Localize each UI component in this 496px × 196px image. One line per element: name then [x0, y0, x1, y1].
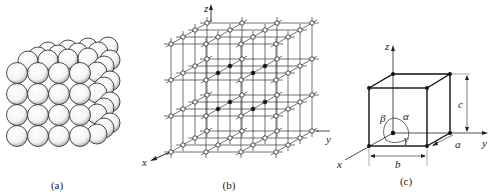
lattice-node: [275, 21, 279, 25]
lattice-node: [181, 71, 185, 75]
lattice-node: [228, 28, 232, 32]
lattice-node: [275, 57, 279, 61]
lattice-node-interior: [228, 64, 232, 68]
lattice-node: [205, 93, 209, 97]
lattice-node: [240, 129, 244, 133]
unit-cell-edges: [369, 74, 450, 146]
edge-b-label: b: [395, 158, 401, 170]
lattice-node: [274, 42, 278, 46]
lattice-node: [181, 143, 185, 147]
lattice-node: [216, 143, 220, 147]
lattice-node: [204, 150, 208, 154]
lattice-node: [216, 35, 220, 39]
lattice-node: [239, 42, 243, 46]
sphere-side-layer: [87, 50, 120, 144]
lattice-node: [310, 57, 314, 61]
crystal-structure-figure: (a) z x y (b) z y x: [0, 0, 496, 196]
lattice-node: [205, 21, 209, 25]
lattice-node-interior: [251, 107, 255, 111]
lattice-node: [193, 136, 197, 140]
lattice-y-axis: y: [316, 131, 331, 145]
lattice-node: [239, 78, 243, 82]
lattice-node: [204, 78, 208, 82]
lattice-node: [310, 129, 314, 133]
y-axis-label-c: y: [481, 137, 487, 149]
panel-a-sphere-packing: [7, 37, 121, 147]
angle-beta-label: β: [379, 112, 386, 124]
lattice-node: [239, 114, 243, 118]
sphere-front-face: [7, 63, 91, 147]
lattice-node: [263, 136, 267, 140]
lattice-node: [286, 107, 290, 111]
x-axis-label-c: x: [336, 158, 342, 170]
unit-cell-vertices: [367, 72, 452, 148]
lattice-x-axis: x: [141, 152, 170, 168]
lattice-node: [286, 35, 290, 39]
lattice-nodes: [169, 21, 314, 154]
lattice-node: [274, 114, 278, 118]
lattice-node: [181, 107, 185, 111]
lattice-node-interior: [263, 64, 267, 68]
lattice-node: [240, 21, 244, 25]
lattice-node: [310, 21, 314, 25]
lattice-node: [298, 136, 302, 140]
lattice-node: [298, 100, 302, 104]
lattice-node: [204, 42, 208, 46]
lattice-node: [251, 143, 255, 147]
lattice-node: [193, 28, 197, 32]
angle-gamma-label: γ: [404, 133, 409, 145]
z-axis-label-b: z: [203, 2, 209, 14]
edge-c-label: c: [458, 98, 463, 110]
lattice-node: [286, 143, 290, 147]
angle-alpha-label: α: [403, 110, 409, 122]
lattice-node-interior: [216, 71, 220, 75]
lattice-node: [205, 57, 209, 61]
lattice-node: [251, 35, 255, 39]
z-axis-label-c: z: [384, 40, 390, 52]
lattice-node-interior: [228, 100, 232, 104]
lattice-node: [169, 150, 173, 154]
lattice-node: [204, 114, 208, 118]
lattice-node: [274, 150, 278, 154]
lattice-node: [274, 78, 278, 82]
lattice-node: [240, 57, 244, 61]
caption-a: (a): [51, 179, 64, 192]
lattice-node: [193, 64, 197, 68]
lattice-z-axis: z: [203, 2, 213, 22]
lattice-node: [228, 136, 232, 140]
x-axis-label-b: x: [141, 156, 147, 168]
lattice-node: [298, 28, 302, 32]
caption-b: (b): [223, 179, 236, 192]
lattice-node: [286, 71, 290, 75]
lattice-node: [169, 78, 173, 82]
lattice-node: [181, 35, 185, 39]
lattice-node: [310, 93, 314, 97]
lattice-node-interior: [251, 71, 255, 75]
lattice-node: [298, 64, 302, 68]
lattice-node: [263, 28, 267, 32]
lattice-node: [169, 42, 173, 46]
lattice-node: [169, 114, 173, 118]
lattice-node: [239, 150, 243, 154]
y-axis-label-b: y: [325, 133, 331, 145]
lattice-node-interior: [263, 100, 267, 104]
lattice-node-interior: [216, 107, 220, 111]
lattice-node: [240, 93, 244, 97]
edge-a-label: a: [455, 138, 461, 150]
lattice-node: [193, 100, 197, 104]
caption-c: (c): [400, 175, 413, 188]
panel-c-unit-cell: z y x β α γ c b: [336, 40, 488, 170]
lattice-node: [205, 129, 209, 133]
lattice-node: [275, 129, 279, 133]
lattice-node: [275, 93, 279, 97]
panel-b-space-lattice: [164, 17, 319, 158]
